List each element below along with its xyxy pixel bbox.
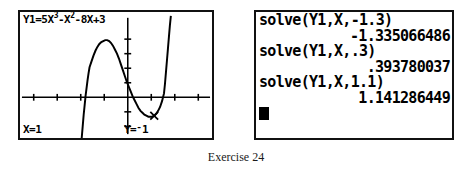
equation-suffix: -8X+3 <box>75 13 106 26</box>
trace-y-prefix: Y= <box>124 123 136 136</box>
calculator-graph-screen: Y1=5X3-X2-8X+3 X=1 Y=-1 <box>18 10 214 140</box>
home-line-result-3: 1.141286449 <box>259 91 450 107</box>
function-plot <box>20 12 212 138</box>
block-cursor-icon <box>259 107 269 120</box>
trace-y-value: Y=-1 <box>124 121 148 136</box>
equation-label: Y1=5X3-X2-8X+3 <box>23 13 105 26</box>
equation-mid: -X <box>58 13 70 26</box>
trace-y-number: 1 <box>142 123 148 136</box>
figure-caption: Exercise 24 <box>0 150 472 165</box>
equation-prefix: Y1=5X <box>23 13 54 26</box>
calculator-home-screen: solve(Y1,X,-1.3) -1.335066486 solve(Y1,X… <box>254 10 454 140</box>
trace-x-value: X=1 <box>23 123 41 136</box>
